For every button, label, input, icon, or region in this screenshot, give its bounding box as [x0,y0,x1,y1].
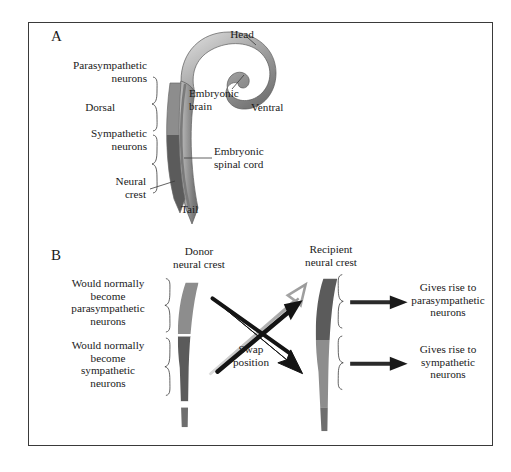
figure-root: A Head Parasympathetic neurons Dorsal Ve… [0,0,511,472]
brace-sympathetic [152,135,157,193]
label-donor-title: Donor neural crest [151,245,247,270]
panel-a-letter: A [51,28,62,45]
brace-parasympathetic [152,77,157,131]
label-parasympathetic-neurons: Parasympathetic neurons [47,59,147,84]
label-dorsal: Dorsal [47,101,115,114]
recipient-tail-segment [309,407,349,441]
label-gives-rise-sympathetic: Gives rise to sympathetic neurons [401,343,495,381]
panel-b-letter: B [51,247,61,264]
panel-a: A Head Parasympathetic neurons Dorsal Ve… [29,23,494,235]
label-embryonic-spinal-cord: Embryonic spinal cord [214,145,306,170]
donor-tail-segment [170,407,210,437]
label-head: Head [212,28,272,41]
label-embryonic-brain: Embryonic brain [189,87,271,112]
recipient-neural-crest [309,269,349,441]
label-tail: Tail [181,203,221,216]
brace-recipient-sympathetic [338,336,343,389]
donor-neural-crest [170,273,210,437]
label-swap-position: Swap position [221,343,281,368]
label-neural-crest: Neural crest [84,175,146,200]
label-would-become-sympathetic: Would normally become sympathetic neuron… [57,339,159,389]
brace-donor-sympathetic [165,338,170,395]
label-would-become-parasympathetic: Would normally become parasympathetic ne… [57,277,159,327]
outcome-arrow-sympathetic [350,357,407,371]
label-recipient-title: Recipient neural crest [281,243,381,268]
brace-donor-parasympathetic [165,279,170,332]
recipient-sympathetic-segment [309,340,349,407]
recipient-parasympathetic-segment [309,269,349,340]
donor-parasympathetic-segment [170,273,210,334]
panel-b: B Donor neural crest Recipient neural cr… [29,233,494,447]
donor-sympathetic-segment [170,336,210,401]
outcome-arrow-parasympathetic [350,295,407,309]
label-gives-rise-parasympathetic: Gives rise to parasympathetic neurons [401,281,495,319]
brace-recipient-parasympathetic [338,275,343,328]
figure-frame: A Head Parasympathetic neurons Dorsal Ve… [28,22,493,446]
label-sympathetic-neurons: Sympathetic neurons [59,127,147,152]
